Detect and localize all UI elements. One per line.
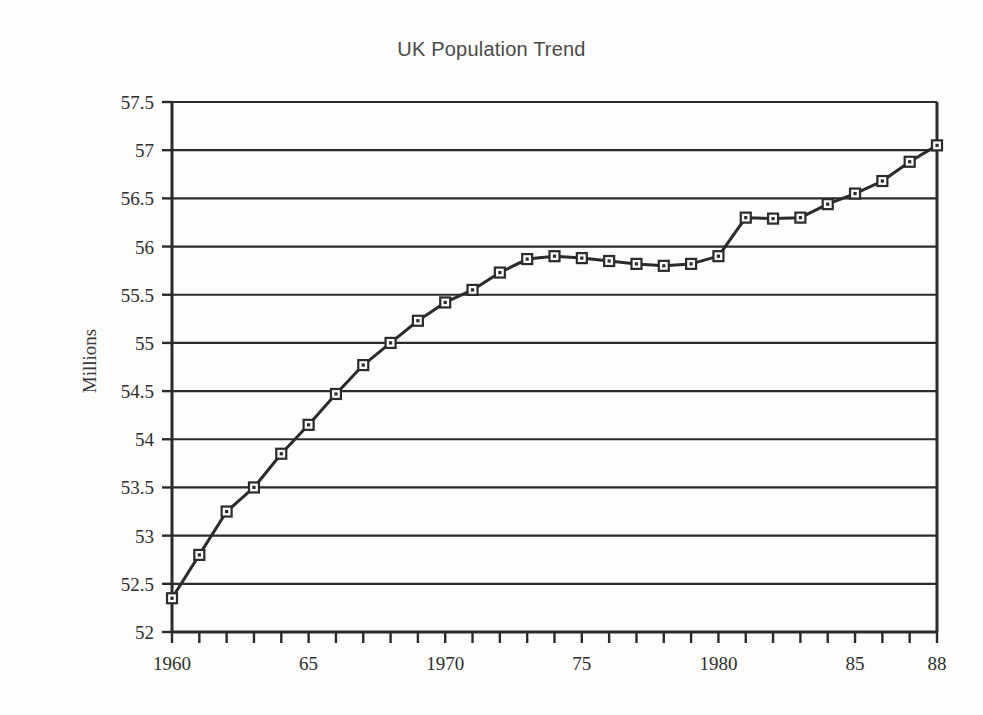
data-point-center: [471, 288, 474, 291]
y-tick-label: 55: [135, 333, 154, 354]
data-point-center: [252, 486, 255, 489]
data-point-center: [198, 553, 201, 556]
plot-area: 5252.55353.55454.55555.55656.55757.5 196…: [0, 0, 983, 715]
data-point-center: [416, 319, 419, 322]
data-point-center: [881, 179, 884, 182]
data-point-center: [853, 192, 856, 195]
x-axis-tick-labels: 19606519707519808588: [153, 653, 947, 674]
y-tick-label: 57: [135, 140, 154, 161]
chart-figure: UK Population Trend Millions 5252.55353.…: [0, 0, 983, 715]
data-point-center: [662, 264, 665, 267]
data-point-center: [170, 597, 173, 600]
gridlines: [172, 102, 937, 632]
x-tick-label: 85: [846, 653, 865, 674]
y-tick-label: 56.5: [121, 188, 154, 209]
data-point-center: [225, 510, 228, 513]
x-tick-label: 1980: [699, 653, 737, 674]
data-point-center: [717, 255, 720, 258]
y-tick-label: 55.5: [121, 285, 154, 306]
data-point-center: [690, 262, 693, 265]
data-point-center: [635, 262, 638, 265]
data-point-center: [444, 301, 447, 304]
data-point-center: [389, 341, 392, 344]
y-axis-tick-labels: 5252.55353.55454.55555.55656.55757.5: [121, 92, 155, 643]
x-tick-label: 75: [572, 653, 591, 674]
data-point-center: [580, 257, 583, 260]
y-tick-label: 54.5: [121, 381, 154, 402]
y-tick-label: 52: [135, 622, 154, 643]
data-series-markers: [167, 140, 942, 603]
data-point-center: [799, 216, 802, 219]
y-tick-label: 52.5: [121, 574, 154, 595]
x-axis-ticks: [172, 632, 937, 643]
y-tick-label: 53: [135, 526, 154, 547]
data-point-center: [280, 452, 283, 455]
data-point-center: [526, 257, 529, 260]
data-point-center: [908, 160, 911, 163]
x-tick-label: 88: [928, 653, 947, 674]
data-point-center: [826, 203, 829, 206]
x-tick-label: 1960: [153, 653, 191, 674]
data-point-center: [744, 216, 747, 219]
data-series-line: [172, 145, 937, 598]
y-tick-label: 56: [135, 237, 154, 258]
y-tick-label: 53.5: [121, 477, 154, 498]
y-tick-label: 57.5: [121, 92, 154, 113]
data-point-center: [553, 255, 556, 258]
x-tick-label: 1970: [426, 653, 464, 674]
x-tick-label: 65: [299, 653, 318, 674]
data-point-center: [771, 217, 774, 220]
data-point-center: [498, 271, 501, 274]
data-point-center: [608, 259, 611, 262]
y-tick-label: 54: [135, 429, 155, 450]
data-point-center: [307, 423, 310, 426]
data-point-center: [362, 363, 365, 366]
axis-lines: [172, 102, 937, 632]
data-point-center: [935, 144, 938, 147]
data-point-center: [334, 392, 337, 395]
